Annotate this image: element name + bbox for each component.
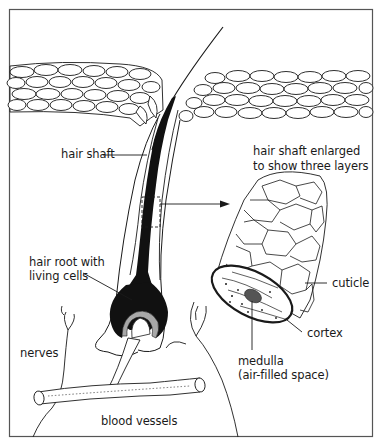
label-cortex: cortex bbox=[307, 326, 343, 340]
skin-layer-left bbox=[7, 62, 163, 126]
label-enlarged-line2: to show three layers bbox=[253, 159, 369, 173]
label-nerves: nerves bbox=[20, 346, 58, 360]
label-hair-root-line2: living cells bbox=[29, 269, 88, 283]
diagram-frame: hair shaft hair shaft enlarged to show t… bbox=[0, 0, 381, 446]
label-cuticle: cuticle bbox=[332, 276, 369, 290]
hair-bulb bbox=[110, 282, 168, 338]
label-hair-root-line1: hair root with bbox=[29, 255, 105, 269]
enlarged-shaft bbox=[203, 172, 327, 334]
skin-layer-right bbox=[179, 71, 373, 122]
label-medulla-line1: medulla bbox=[238, 354, 284, 368]
arrowhead-icon bbox=[220, 201, 230, 208]
label-enlarged-line1: hair shaft enlarged bbox=[253, 144, 360, 158]
blood-vessel bbox=[33, 338, 206, 406]
label-medulla-line2: (air-filled space) bbox=[238, 368, 329, 382]
cortex-leader bbox=[287, 320, 302, 332]
label-blood-vessels: blood vessels bbox=[101, 414, 177, 428]
label-hair-shaft: hair shaft bbox=[61, 147, 115, 161]
